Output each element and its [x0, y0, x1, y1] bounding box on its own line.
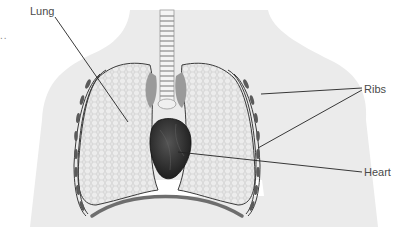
anatomy-illustration	[0, 0, 407, 227]
trachea	[160, 10, 174, 105]
ribs-label: Ribs	[364, 84, 386, 95]
heart-label: Heart	[364, 167, 391, 178]
thorax-diagram: ..	[0, 0, 407, 227]
lung-label: Lung	[30, 6, 54, 17]
